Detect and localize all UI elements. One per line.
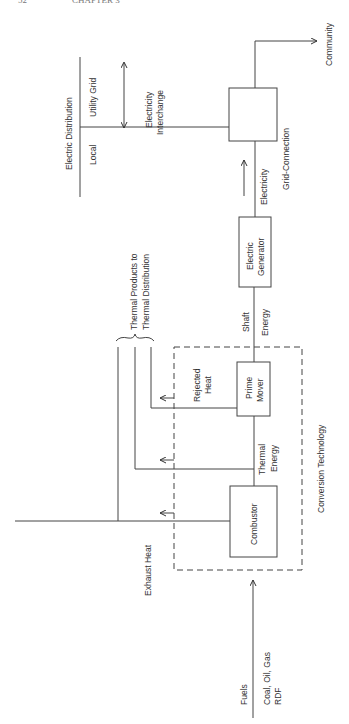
- thermal-products-bracket: [116, 334, 154, 341]
- thermal-energy-label-1: Thermal: [257, 444, 267, 475]
- thermal-products-label-1: Thermal Products to: [129, 253, 139, 330]
- interchange-label-line2: Interchange: [155, 90, 165, 135]
- rejected-heat-label-2: Heat: [203, 375, 213, 394]
- community-label: Community: [324, 22, 334, 66]
- grid-connection-box: [229, 88, 277, 141]
- thermal-products-label-2: Thermal Distribution: [141, 254, 151, 330]
- utility-grid-label: Utility Grid: [88, 78, 98, 117]
- electric-generator-box: [239, 217, 271, 287]
- interchange-label-line1: Electricity: [144, 91, 154, 128]
- chapter-label: CHAPTER 3: [72, 0, 120, 5]
- electric-distribution-label: Electric Distribution: [64, 97, 74, 170]
- electric-generator-label-1: Electric: [245, 241, 255, 270]
- exhaust-heat-label: Exhaust Heat: [143, 544, 153, 596]
- combustor-label: Combustor: [249, 503, 259, 545]
- page-header: 52 CHAPTER 3: [18, 0, 120, 5]
- community-arrow: [255, 41, 317, 88]
- prime-mover-label-2: Mover: [255, 378, 265, 402]
- conversion-technology-label: Conversion Technology: [316, 424, 326, 513]
- fuel-types-label-2: RDF: [273, 688, 283, 705]
- prime-mover-label-1: Prime: [244, 377, 254, 399]
- grid-connection-label: Grid-Connection: [281, 128, 291, 190]
- rejected-heat-label-1: Rejected: [192, 368, 202, 402]
- fuel-types-label-1: Coal, Oil, Gas: [262, 652, 272, 705]
- energy-system-diagram: 52 CHAPTER 3 Electric Distribution Utili…: [0, 0, 349, 724]
- local-label: Local: [88, 145, 98, 165]
- energy-label: Energy: [260, 308, 270, 336]
- fuels-label: Fuels: [239, 684, 249, 705]
- electricity-label: Electricity: [259, 168, 269, 205]
- shaft-label: Shaft: [241, 312, 251, 332]
- page-number: 52: [18, 0, 27, 5]
- electric-generator-label-2: Generator: [256, 238, 266, 276]
- thermal-energy-label-2: Energy: [269, 444, 279, 472]
